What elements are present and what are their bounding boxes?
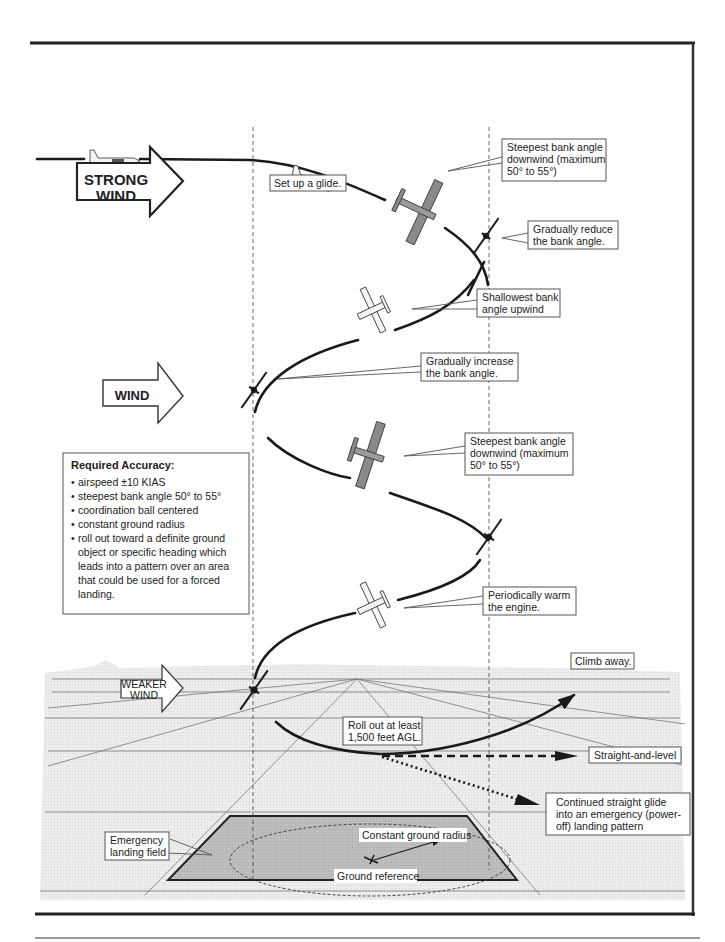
airplane-icon-steep-bank-2 [340, 416, 393, 491]
accuracy-item: leads into a pattern over an area [78, 560, 229, 572]
svg-text:•: • [71, 518, 75, 530]
callout-text: Steepest bank angle [470, 435, 566, 447]
callout-text: 50° to 55°) [507, 165, 557, 177]
callout-climb-away: Climb away. [571, 653, 634, 669]
svg-text:•: • [71, 504, 75, 516]
wind-label-strong-2: WIND [96, 187, 136, 204]
accuracy-item: that could be used for a forced [78, 574, 220, 586]
accuracy-item: constant ground radius [78, 518, 185, 530]
accuracy-item: object or specific heading which [78, 546, 226, 558]
callout-text: into an emergency (power- [556, 808, 681, 820]
callout-text: Straight-and-level [594, 749, 676, 761]
callout-text: Gradually reduce [533, 223, 613, 235]
callout-increase-bank: Gradually increase the bank angle. [277, 353, 518, 381]
callout-roll-out: Roll out at least 1,500 feet AGL. [343, 717, 422, 745]
callout-steepest-bank-1: Steepest bank angle downwind (maximum 50… [448, 139, 606, 181]
callout-set-up-glide: Set up a glide. [270, 175, 346, 191]
callout-text: downwind (maximum [470, 447, 569, 459]
callout-text: Set up a glide. [274, 177, 341, 189]
callout-text: the engine. [488, 601, 540, 613]
wind-arrow-medium: WIND [103, 363, 183, 423]
label-ground-reference: Ground reference [334, 869, 419, 883]
callout-steepest-bank-2: Steepest bank angle downwind (maximum 50… [404, 433, 573, 475]
callout-text: Periodically warm [488, 589, 571, 601]
svg-text:•: • [71, 490, 75, 502]
callout-text: Roll out at least [348, 719, 420, 731]
accuracy-item: landing. [78, 588, 115, 600]
s-turn-diagram: STRONG WIND WIND WEAKER WIND Set up a gl… [0, 0, 725, 942]
airplane-icon-warm-engine [348, 577, 396, 634]
airplane-icon-reduce-bank [469, 215, 502, 257]
label-constant-ground-radius: Constant ground radius [359, 828, 471, 842]
callout-text: the bank angle. [426, 367, 498, 379]
callout-text: landing field [110, 846, 166, 858]
callout-text: Continued straight glide [556, 796, 666, 808]
callout-text: Emergency [110, 834, 164, 846]
required-accuracy-box: Required Accuracy: • airspeed ±10 KIAS •… [63, 453, 249, 614]
callout-text: Constant ground radius [362, 829, 471, 841]
callout-text: 1,500 feet AGL. [348, 731, 421, 743]
callout-text: the bank angle. [533, 235, 605, 247]
callout-continued-glide: Continued straight glide into an emergen… [546, 793, 690, 835]
airplane-icon-steep-bank-1 [382, 169, 449, 248]
callout-text: Climb away. [575, 655, 631, 667]
callout-text: Gradually increase [426, 355, 514, 367]
callout-text: angle upwind [482, 303, 544, 315]
callout-text: downwind (maximum [507, 153, 606, 165]
wind-label-strong-1: STRONG [84, 171, 148, 188]
callout-straight-and-level: Straight-and-level [589, 747, 681, 763]
accuracy-item: steepest bank angle 50° to 55° [78, 490, 221, 502]
callout-text: Ground reference [337, 870, 419, 882]
callout-text: off) landing pattern [556, 820, 644, 832]
accuracy-item: roll out toward a definite ground [78, 532, 225, 544]
callout-text: 50° to 55°) [470, 459, 520, 471]
svg-text:•: • [71, 476, 75, 488]
wind-label-weaker-2: WIND [130, 689, 158, 701]
svg-text:•: • [71, 532, 75, 544]
airplane-icon-shallow-bank [348, 282, 396, 339]
callout-reduce-bank: Gradually reduce the bank angle. [502, 221, 618, 249]
wind-label-medium: WIND [115, 388, 150, 403]
accuracy-item: coordination ball centered [78, 504, 198, 516]
callout-text: Steepest bank angle [507, 141, 603, 153]
accuracy-item: airspeed ±10 KIAS [78, 476, 165, 488]
accuracy-title: Required Accuracy: [71, 459, 175, 471]
callout-text: Shallowest bank [482, 291, 559, 303]
